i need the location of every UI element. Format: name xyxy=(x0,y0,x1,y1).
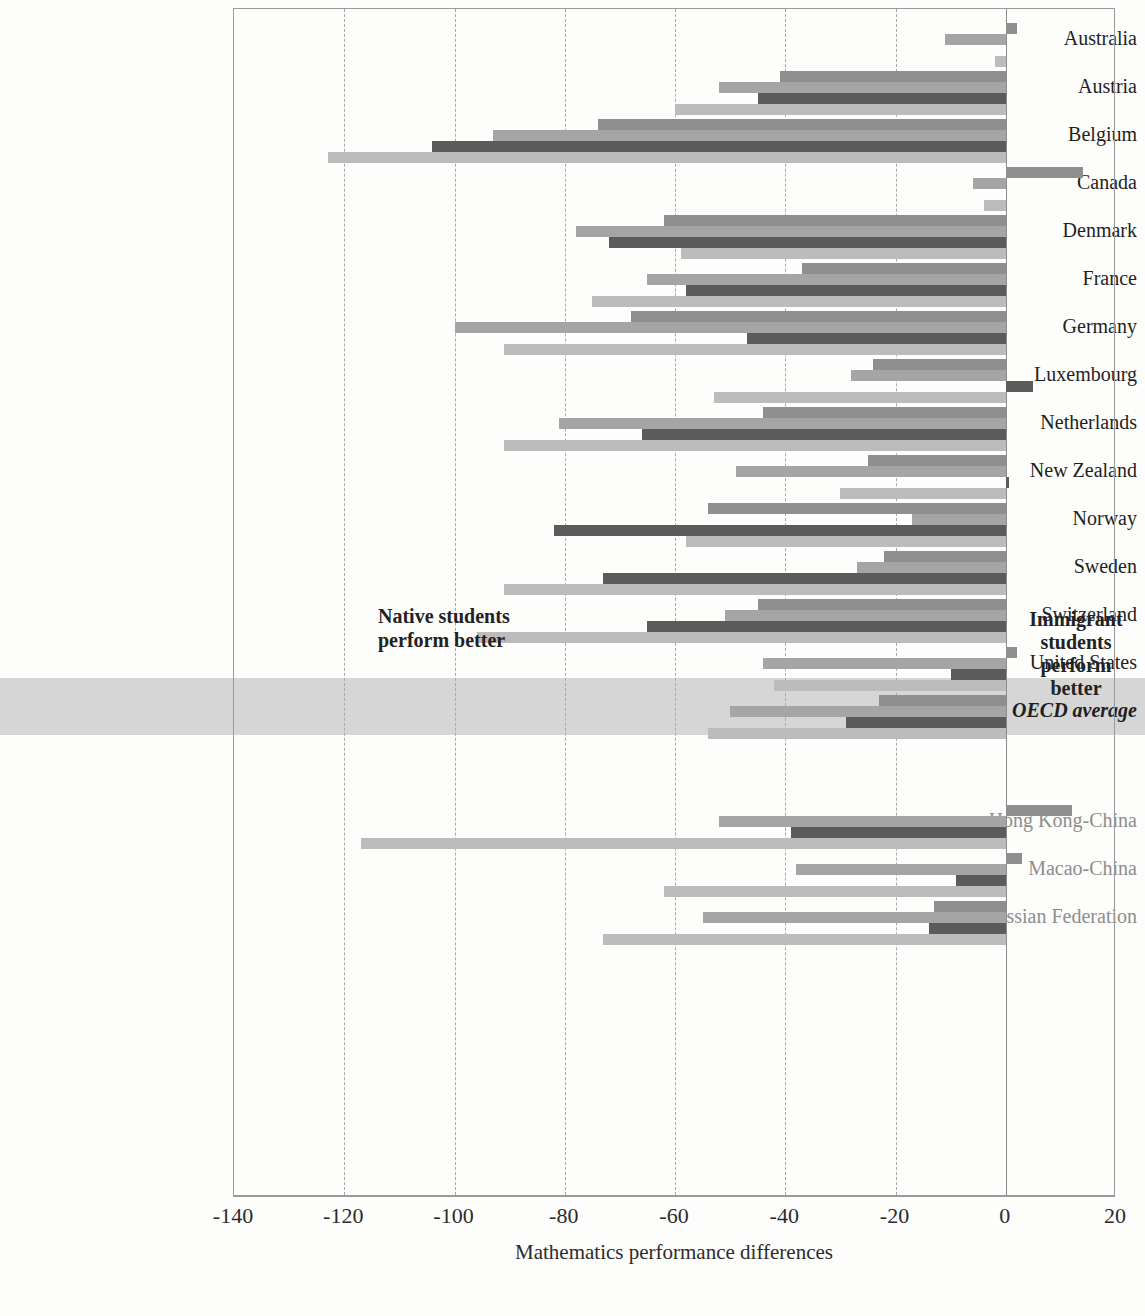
bar-netherlands-series-4 xyxy=(504,440,1006,451)
bar-norway-series-4 xyxy=(686,536,1006,547)
bar-belgium-series-3 xyxy=(432,141,1005,152)
bar-france-series-2 xyxy=(647,274,1005,285)
x-tick--40: -40 xyxy=(770,1203,799,1229)
bar-france-series-3 xyxy=(686,285,1006,296)
gridline--100 xyxy=(455,9,456,1195)
bar-sweden-series-4 xyxy=(504,584,1006,595)
bar-belgium-series-2 xyxy=(493,130,1006,141)
bar-norway-series-3 xyxy=(554,525,1006,536)
bar-austria-series-4 xyxy=(675,104,1006,115)
bar-russian-federation-series-3 xyxy=(929,923,1006,934)
x-tick-20: 20 xyxy=(1104,1203,1126,1229)
bar-denmark-series-3 xyxy=(609,237,1006,248)
bar-macao-china-series-4 xyxy=(664,886,1006,897)
bar-germany-series-3 xyxy=(747,333,1006,344)
native-students-annotation: Native studentsperform better xyxy=(378,604,510,652)
bar-denmark-series-2 xyxy=(576,226,1006,237)
bar-canada-series-1 xyxy=(1006,167,1083,178)
bar-russian-federation-series-2 xyxy=(703,912,1006,923)
bar-hong-kong-china-series-3 xyxy=(791,827,1006,838)
immigrant-annotation-line-4: better xyxy=(1010,677,1142,700)
x-axis-line xyxy=(233,1196,1115,1197)
bar-luxembourg-series-3 xyxy=(1006,381,1034,392)
bar-macao-china-series-2 xyxy=(796,864,1005,875)
bar-united-states-series-2 xyxy=(763,658,1006,669)
bar-denmark-series-4 xyxy=(681,248,1006,259)
x-tick--140: -140 xyxy=(213,1203,253,1229)
bar-united-states-series-4 xyxy=(774,680,1006,691)
bar-luxembourg-series-2 xyxy=(851,370,1005,381)
bar-germany-series-4 xyxy=(504,344,1006,355)
bar-australia-series-4 xyxy=(995,56,1006,67)
bar-sweden-series-2 xyxy=(857,562,1006,573)
bar-sweden-series-3 xyxy=(603,573,1005,584)
bar-oecd-average-series-4 xyxy=(708,728,1006,739)
x-tick--60: -60 xyxy=(659,1203,688,1229)
x-tick--100: -100 xyxy=(433,1203,473,1229)
native-annotation-line-1: Native students xyxy=(378,604,510,628)
bar-luxembourg-series-1 xyxy=(873,359,1005,370)
bar-denmark-series-1 xyxy=(664,215,1006,226)
immigrant-annotation-line-2: students xyxy=(1010,631,1142,654)
bar-austria-series-1 xyxy=(780,71,1006,82)
gridline--120 xyxy=(344,9,345,1195)
bar-macao-china-series-1 xyxy=(1006,853,1023,864)
bar-netherlands-series-2 xyxy=(559,418,1006,429)
bar-luxembourg-series-4 xyxy=(714,392,1006,403)
bar-switzerland-series-2 xyxy=(725,610,1006,621)
bar-oecd-average-series-1 xyxy=(879,695,1006,706)
bar-germany-series-1 xyxy=(631,311,1006,322)
immigrant-annotation-line-1: Immigrant xyxy=(1010,608,1142,631)
immigrant-annotation-line-3: perform xyxy=(1010,654,1142,677)
x-tick-0: 0 xyxy=(999,1203,1010,1229)
bar-switzerland-series-3 xyxy=(647,621,1005,632)
bar-austria-series-2 xyxy=(719,82,1006,93)
bar-new-zealand-series-3 xyxy=(1006,477,1009,488)
bar-united-states-series-3 xyxy=(951,669,1006,680)
gridline--80 xyxy=(565,9,566,1195)
bar-france-series-4 xyxy=(592,296,1005,307)
bar-new-zealand-series-2 xyxy=(736,466,1006,477)
x-tick--80: -80 xyxy=(549,1203,578,1229)
chart-page: AustraliaAustriaBelgiumCanadaDenmarkFran… xyxy=(0,0,1145,1316)
bar-hong-kong-china-series-2 xyxy=(719,816,1006,827)
bar-russian-federation-series-1 xyxy=(934,901,1006,912)
bar-belgium-series-4 xyxy=(328,152,1006,163)
bar-switzerland-series-1 xyxy=(758,599,1006,610)
bar-australia-series-2 xyxy=(945,34,1006,45)
native-annotation-line-2: perform better xyxy=(378,628,510,652)
bar-norway-series-1 xyxy=(708,503,1006,514)
bar-new-zealand-series-4 xyxy=(840,488,1005,499)
bar-belgium-series-1 xyxy=(598,119,1006,130)
bar-netherlands-series-1 xyxy=(763,407,1006,418)
plot-area xyxy=(233,8,1115,1196)
bar-germany-series-2 xyxy=(455,322,1006,333)
bar-hong-kong-china-series-1 xyxy=(1006,805,1072,816)
bar-macao-china-series-3 xyxy=(956,875,1006,886)
bar-canada-series-4 xyxy=(984,200,1006,211)
bar-canada-series-2 xyxy=(973,178,1006,189)
bar-australia-series-1 xyxy=(1006,23,1017,34)
x-tick--120: -120 xyxy=(323,1203,363,1229)
immigrant-students-annotation: Immigrantstudentsperformbetter xyxy=(1010,608,1142,700)
bar-hong-kong-china-series-4 xyxy=(361,838,1006,849)
bar-russian-federation-series-4 xyxy=(603,934,1005,945)
x-tick--20: -20 xyxy=(880,1203,909,1229)
x-axis-title: Mathematics performance differences xyxy=(233,1240,1115,1265)
bar-sweden-series-1 xyxy=(884,551,1005,562)
bar-austria-series-3 xyxy=(758,93,1006,104)
bar-oecd-average-series-2 xyxy=(730,706,1006,717)
bar-new-zealand-series-1 xyxy=(868,455,1006,466)
bar-oecd-average-series-3 xyxy=(846,717,1006,728)
bar-norway-series-2 xyxy=(912,514,1006,525)
gridline--60 xyxy=(675,9,676,1195)
bar-netherlands-series-3 xyxy=(642,429,1006,440)
bar-france-series-1 xyxy=(802,263,1006,274)
bar-switzerland-series-4 xyxy=(477,632,1006,643)
zero-axis-line xyxy=(1006,9,1007,1195)
